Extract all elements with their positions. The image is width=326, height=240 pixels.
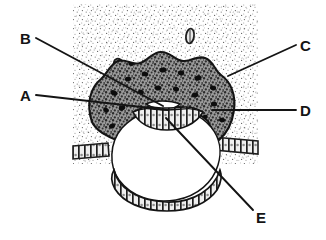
uterine-epithelium-left xyxy=(73,143,109,159)
label-E: E xyxy=(256,210,266,225)
label-C: C xyxy=(300,38,311,53)
label-D: D xyxy=(300,103,311,118)
label-A: A xyxy=(20,88,31,103)
label-B: B xyxy=(20,31,31,46)
histology-diagram xyxy=(0,0,326,240)
figure-canvas: B A C D E xyxy=(0,0,326,240)
